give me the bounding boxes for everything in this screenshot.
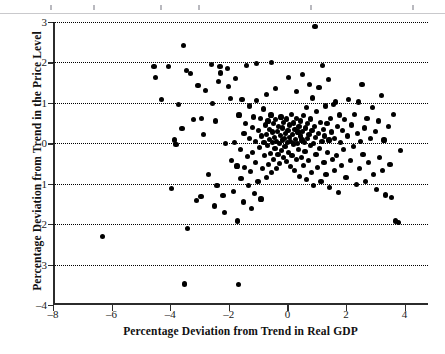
- data-point: [299, 155, 304, 160]
- data-point: [234, 163, 239, 168]
- plot-area: [53, 22, 428, 305]
- data-point: [332, 168, 337, 173]
- data-point: [191, 117, 196, 122]
- data-point: [278, 114, 283, 119]
- data-point: [332, 136, 337, 141]
- data-point: [210, 101, 215, 106]
- data-point: [348, 158, 353, 163]
- data-point: [294, 89, 299, 94]
- y-tick-7: [48, 22, 53, 23]
- page-edge-artifact-ticks: [0, 5, 445, 13]
- data-point: [272, 146, 277, 151]
- data-point: [226, 84, 231, 89]
- data-point: [216, 79, 221, 84]
- data-point: [311, 183, 316, 188]
- data-point: [341, 147, 346, 152]
- x-tick-label-2: –4: [165, 308, 176, 320]
- data-point: [254, 61, 259, 66]
- x-axis-label: Percentage Deviation from Trend in Real …: [53, 325, 428, 337]
- data-point: [360, 152, 365, 157]
- data-point: [356, 99, 361, 104]
- data-point: [256, 128, 261, 133]
- page-edge-artifact-line: [0, 13, 445, 14]
- data-point: [366, 160, 371, 165]
- data-point: [300, 72, 305, 77]
- data-point: [223, 141, 228, 146]
- data-point: [212, 203, 217, 208]
- edge-tick-1: [93, 5, 95, 10]
- data-point: [316, 131, 321, 136]
- y-tick-3: [48, 184, 53, 185]
- data-point: [188, 71, 193, 76]
- data-point: [383, 192, 388, 197]
- x-tick-label-0: –8: [48, 308, 59, 320]
- data-point: [325, 150, 330, 155]
- x-axis-line: [53, 303, 428, 305]
- data-point: [252, 191, 257, 196]
- data-point: [318, 120, 323, 125]
- data-point: [258, 116, 263, 121]
- data-point: [327, 185, 332, 190]
- data-point: [169, 186, 174, 191]
- data-point: [269, 60, 274, 65]
- data-point: [301, 113, 306, 118]
- data-point: [339, 163, 344, 168]
- data-point: [329, 129, 334, 134]
- data-point: [253, 160, 258, 165]
- y-tick-0: [48, 305, 53, 306]
- data-point: [301, 163, 306, 168]
- data-point: [257, 145, 262, 150]
- data-point: [241, 199, 246, 204]
- data-point: [364, 116, 369, 121]
- data-point: [318, 179, 323, 184]
- data-point: [206, 172, 211, 177]
- data-point: [289, 112, 294, 117]
- data-point: [284, 116, 289, 121]
- gridline-y-1: [53, 103, 428, 104]
- y-axis-line: [53, 22, 55, 305]
- x-tick-label-5: 2: [343, 308, 349, 320]
- data-point: [242, 165, 247, 170]
- data-point: [274, 166, 279, 171]
- data-point: [362, 125, 367, 130]
- data-point: [302, 149, 307, 154]
- data-point: [317, 146, 322, 151]
- data-point: [260, 166, 265, 171]
- data-point: [335, 124, 340, 129]
- data-point: [303, 125, 308, 130]
- data-point: [312, 124, 317, 129]
- data-point: [326, 77, 331, 82]
- data-point: [262, 153, 267, 158]
- data-point: [311, 141, 316, 146]
- data-point: [209, 62, 214, 67]
- data-point: [321, 160, 326, 165]
- data-point: [235, 218, 240, 223]
- data-point: [304, 177, 309, 182]
- data-point: [376, 118, 381, 123]
- scatter-chart-figure: –8–6–4–2024 –4–3–2–10123 Percentage Devi…: [0, 0, 445, 354]
- data-point: [371, 172, 376, 177]
- data-point: [310, 95, 315, 100]
- data-point: [294, 157, 299, 162]
- data-point: [320, 63, 325, 68]
- data-point: [307, 82, 312, 87]
- data-point: [268, 151, 273, 156]
- data-point: [338, 140, 343, 145]
- data-point: [297, 174, 302, 179]
- y-tick-6: [48, 62, 53, 63]
- data-point: [357, 166, 362, 171]
- data-point: [153, 75, 158, 80]
- data-point: [173, 142, 178, 147]
- data-point: [324, 121, 329, 126]
- data-point: [380, 168, 385, 173]
- data-point: [233, 76, 238, 81]
- x-tick-label-3: –2: [223, 308, 234, 320]
- data-point: [199, 116, 204, 121]
- data-point: [243, 121, 248, 126]
- data-point: [337, 112, 342, 117]
- data-point: [336, 190, 341, 195]
- data-point: [238, 176, 243, 181]
- data-point: [250, 125, 255, 130]
- data-point: [225, 66, 230, 71]
- data-point: [308, 116, 313, 121]
